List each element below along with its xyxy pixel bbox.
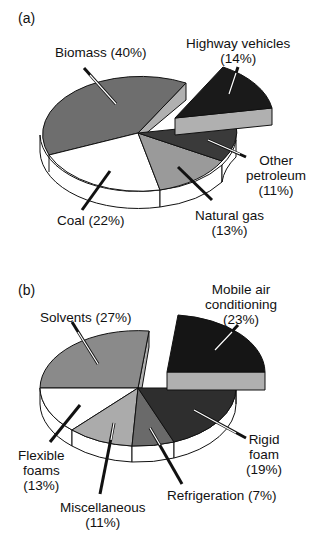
label-solvents: Solvents (27%)	[40, 310, 132, 325]
label-highway-vehicles-pct: (14%)	[186, 51, 290, 66]
label-mac-line2: conditioning	[205, 297, 277, 312]
label-other-petroleum: Other petroleum (11%)	[246, 153, 306, 198]
label-misc-pct: (11%)	[60, 515, 146, 530]
label-highway-vehicles: Highway vehicles (14%)	[186, 36, 290, 66]
label-natural-gas: Natural gas (13%)	[195, 208, 264, 238]
label-biomass: Biomass (40%)	[55, 45, 147, 60]
label-flex-line1: Flexible	[18, 448, 65, 463]
panel-label-b: (b)	[18, 282, 35, 298]
pie-chart-b: (b) Solvents (27%) Mobile air conditioni…	[0, 270, 313, 550]
label-mac-line1: Mobile air	[205, 282, 277, 297]
label-highway-vehicles-name: Highway vehicles	[186, 36, 290, 51]
label-mobile-air-conditioning: Mobile air conditioning (23%)	[205, 282, 277, 327]
label-natural-gas-name: Natural gas	[195, 208, 264, 223]
label-other-petroleum-line1: Other	[246, 153, 306, 168]
label-flexible-foams: Flexible foams (13%)	[18, 448, 65, 493]
label-flex-pct: (13%)	[18, 478, 65, 493]
label-refrigeration: Refrigeration (7%)	[167, 488, 277, 503]
label-miscellaneous: Miscellaneous (11%)	[60, 500, 146, 530]
label-mac-pct: (23%)	[205, 312, 277, 327]
label-coal: Coal (22%)	[57, 213, 125, 228]
pie-chart-a: (a) Biomass (40%) Highway vehicles (14%)…	[0, 0, 313, 275]
label-flex-line2: foams	[18, 463, 65, 478]
label-other-petroleum-line2: petroleum	[246, 168, 306, 183]
label-rigid-foam-line2: foam	[246, 447, 282, 462]
label-other-petroleum-pct: (11%)	[246, 183, 306, 198]
label-rigid-foam-pct: (19%)	[246, 462, 282, 477]
label-rigid-foam-line1: Rigid	[246, 432, 282, 447]
label-misc-name: Miscellaneous	[60, 500, 146, 515]
label-natural-gas-pct: (13%)	[195, 223, 264, 238]
panel-label-a: (a)	[18, 10, 35, 26]
label-rigid-foam: Rigid foam (19%)	[246, 432, 282, 477]
